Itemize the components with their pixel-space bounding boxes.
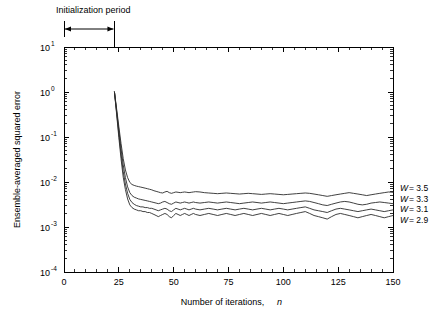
legend-entry-1: W= 3.3 <box>400 194 428 204</box>
initialization-period-annotation: Initialization period <box>56 5 131 47</box>
x-tick-label: 100 <box>276 277 291 287</box>
svg-text:10: 10 <box>40 178 50 188</box>
x-axis-tick-labels: 0255075100125150 <box>61 277 400 287</box>
series-curve-2 <box>114 92 393 213</box>
y-axis-ticks <box>64 47 393 272</box>
legend-entry-0: W= 3.5 <box>400 183 428 193</box>
svg-text:-3: -3 <box>51 220 57 227</box>
figure-page: 0255075100125150 10110010-110-210-310-4 … <box>0 0 446 317</box>
initialization-period-label: Initialization period <box>56 5 131 15</box>
svg-text:10: 10 <box>40 223 50 233</box>
svg-text:0: 0 <box>51 85 55 92</box>
svg-text:-1: -1 <box>51 130 57 137</box>
data-series-curves <box>114 92 393 219</box>
y-tick-label: 101 <box>40 40 55 53</box>
y-tick-label: 10-2 <box>40 175 57 188</box>
x-tick-label: 50 <box>169 277 179 287</box>
legend-entry-2: W= 3.1 <box>400 204 428 214</box>
svg-text:10: 10 <box>40 268 50 278</box>
y-tick-label: 100 <box>40 85 55 98</box>
axis-titles: Number of iterations,nEnsemble-averaged … <box>12 91 282 307</box>
plot-frame <box>64 47 393 272</box>
x-axis-ticks <box>64 47 393 272</box>
x-axis-title: Number of iterations, <box>181 297 265 307</box>
series-curve-3 <box>114 92 393 219</box>
series-curve-0 <box>114 92 393 196</box>
svg-text:-4: -4 <box>51 265 57 272</box>
annotation-arrowhead-left <box>65 26 71 31</box>
learning-curve-figure: 0255075100125150 10110010-110-210-310-4 … <box>0 0 446 317</box>
annotation-arrowhead-right <box>107 26 113 31</box>
y-axis-tick-labels: 10110010-110-210-310-4 <box>40 40 57 278</box>
legend-variable: W <box>400 215 409 225</box>
x-tick-label: 0 <box>61 277 66 287</box>
y-tick-label: 10-3 <box>40 220 57 233</box>
legend-entry-3: W= 2.9 <box>400 215 428 225</box>
svg-text:1: 1 <box>51 40 55 47</box>
legend-variable: W <box>400 194 409 204</box>
svg-text:10: 10 <box>40 43 50 53</box>
y-tick-label: 10-4 <box>40 265 57 278</box>
x-tick-label: 125 <box>331 277 346 287</box>
x-tick-label: 150 <box>385 277 400 287</box>
svg-text:10: 10 <box>40 133 50 143</box>
x-tick-label: 75 <box>223 277 233 287</box>
y-tick-label: 10-1 <box>40 130 57 143</box>
svg-text:-2: -2 <box>51 175 57 182</box>
x-tick-label: 25 <box>114 277 124 287</box>
series-legend: W= 3.5W= 3.3W= 3.1W= 2.9 <box>400 183 428 225</box>
svg-text:10: 10 <box>40 88 50 98</box>
legend-value: = 3.3 <box>409 194 428 204</box>
legend-value: = 3.1 <box>409 204 428 214</box>
series-curve-1 <box>114 92 393 206</box>
legend-value: = 2.9 <box>409 215 428 225</box>
legend-variable: W <box>400 183 409 193</box>
legend-value: = 3.5 <box>409 183 428 193</box>
legend-variable: W <box>400 204 409 214</box>
x-axis-title-variable: n <box>277 297 282 307</box>
y-axis-title: Ensemble-averaged squared error <box>12 91 22 228</box>
plot-area-border <box>64 47 393 272</box>
